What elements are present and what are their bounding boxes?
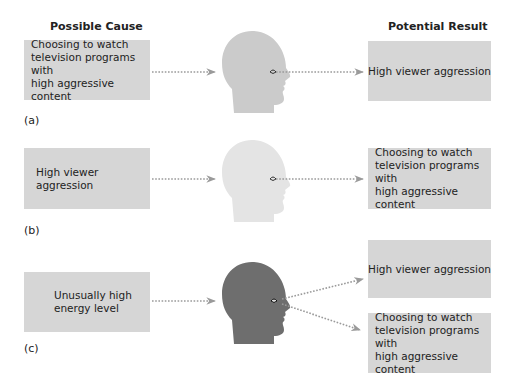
head-c-icon: [222, 262, 290, 344]
arrow-c-result-2: [282, 304, 360, 330]
diagram-graphics: [0, 0, 512, 381]
arrow-c-result-1: [282, 279, 363, 299]
head-b-icon: [222, 140, 290, 222]
eye-c-icon: [271, 299, 277, 303]
